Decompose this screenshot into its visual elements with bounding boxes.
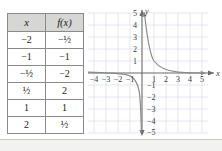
cell-x: ½	[8, 83, 46, 100]
x-tick-label: −4	[90, 75, 99, 84]
cell-fx: −2	[46, 66, 84, 83]
table-row: 1 1	[8, 100, 84, 117]
column-header-x: x	[8, 14, 46, 32]
cell-x: −1	[8, 49, 46, 66]
x-tick-label: −3	[102, 75, 111, 84]
y-tick-label: −5	[147, 128, 156, 136]
y-axis-label: y	[144, 8, 149, 16]
cell-x: −2	[8, 32, 46, 49]
table-row: 2 ½	[8, 117, 84, 134]
x-tick-label: 5	[200, 75, 204, 84]
axes	[88, 10, 214, 134]
table-row: −2 −½	[8, 32, 84, 49]
coordinate-graph: −4 −3 −2 −1 1 2 3 4 5 5 4 3 2 1 −1 −2 −3…	[88, 8, 222, 136]
cell-x: −½	[8, 66, 46, 83]
y-tick-label: 2	[133, 45, 137, 54]
table-header-row: x f(x)	[8, 14, 84, 32]
y-tick-label: −4	[147, 117, 156, 126]
y-tick-label: −2	[147, 93, 156, 102]
table-row: ½ 2	[8, 83, 84, 100]
x-tick-label: −2	[114, 75, 123, 84]
x-axis-arrow-icon	[208, 70, 214, 75]
x-tick-label: 2	[164, 75, 168, 84]
y-tick-label: −1	[147, 81, 156, 90]
curve-arrowheads	[141, 12, 206, 76]
y-tick-label: 3	[133, 33, 137, 42]
cell-fx: −½	[46, 32, 84, 49]
cell-x: 1	[8, 100, 46, 117]
y-tick-label: −3	[147, 105, 156, 114]
x-axis-label: x	[215, 69, 220, 78]
table-row: −1 −1	[8, 49, 84, 66]
value-table: x f(x) −2 −½ −1 −1 −½ −2 ½ 2 1 1	[7, 13, 84, 134]
cell-fx: 1	[46, 100, 84, 117]
y-tick-label: 4	[133, 21, 137, 30]
cell-fx: −1	[46, 49, 84, 66]
x-tick-label: 4	[188, 75, 192, 84]
table-row: −½ −2	[8, 66, 84, 83]
figure-container: x f(x) −2 −½ −1 −1 −½ −2 ½ 2 1 1	[0, 0, 222, 140]
y-tick-label: 5	[133, 9, 137, 18]
cell-fx: 2	[46, 83, 84, 100]
cell-fx: ½	[46, 117, 84, 134]
x-tick-label: −1	[126, 75, 135, 84]
column-header-fx: f(x)	[46, 14, 84, 32]
y-tick-label: 1	[133, 57, 137, 66]
cell-x: 2	[8, 117, 46, 134]
x-tick-label: 3	[176, 75, 180, 84]
curve-branch-positive	[144, 13, 202, 73]
